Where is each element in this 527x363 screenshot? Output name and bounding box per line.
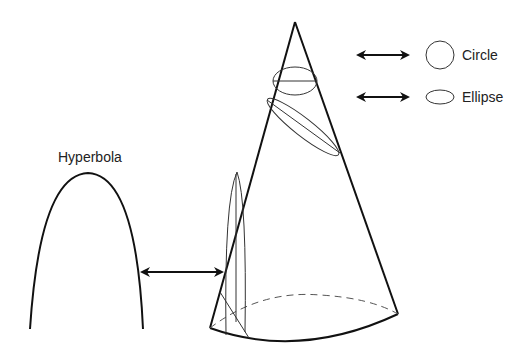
cone <box>210 22 398 341</box>
hyperbola-shape <box>30 173 143 329</box>
hyperbola-cut-baseline <box>220 292 249 338</box>
cone-base-front <box>210 314 398 341</box>
ellipse-shape <box>426 90 454 104</box>
ellipse-label: Ellipse <box>462 89 503 105</box>
cone-left-edge <box>210 22 295 328</box>
hyperbola-section <box>220 172 249 338</box>
circle-label: Circle <box>462 47 498 63</box>
cone-right-edge <box>295 22 398 314</box>
circle-section <box>273 67 317 95</box>
cone-base-back <box>210 294 398 328</box>
conic-sections-diagram: Circle Ellipse Hyperbola <box>0 0 527 363</box>
hyperbola-label: Hyperbola <box>58 149 122 165</box>
circle-shape <box>426 41 454 69</box>
ellipse-cut-plane <box>267 100 340 153</box>
